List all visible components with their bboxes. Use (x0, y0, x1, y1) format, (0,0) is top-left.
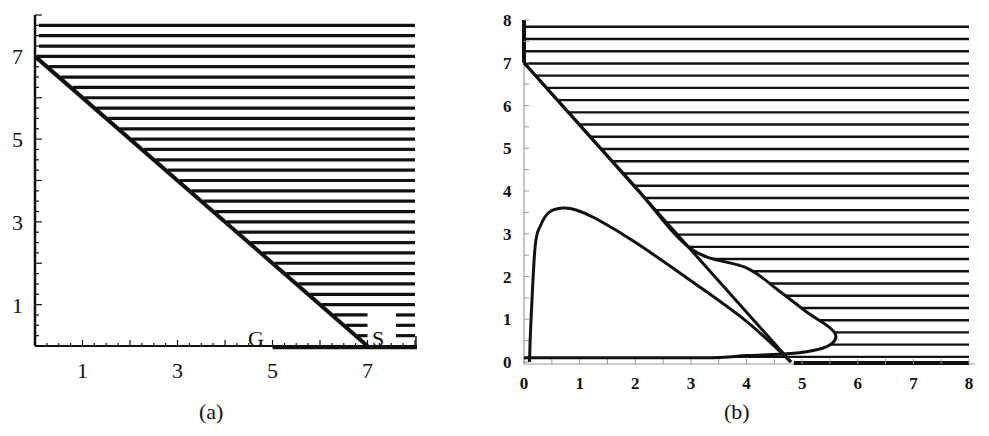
y-tick-label: 1 (12, 293, 23, 318)
x-tick-label: 1 (77, 358, 88, 383)
x-tick-labels-a: 1357 (77, 358, 373, 383)
y-tick-labels-a: 1357 (12, 44, 23, 317)
annotation-s: S (372, 326, 384, 351)
chart-panel-b: 012345678 012345678 (b) (503, 11, 975, 424)
y-tick-label: 8 (503, 11, 512, 30)
y-tick-label: 0 (503, 353, 512, 372)
x-tick-label: 7 (909, 374, 918, 393)
panel-label-a: (a) (199, 399, 223, 424)
y-tick-label: 3 (12, 210, 23, 235)
y-tick-label: 1 (503, 310, 512, 329)
hatch-region-a (37, 25, 415, 335)
chart-panel-a: 1357 1357 G S (a) (12, 15, 417, 424)
y-tick-label: 6 (503, 97, 512, 116)
y-tick-label: 4 (503, 182, 512, 201)
x-tick-label: 1 (575, 374, 584, 393)
y-tick-label: 3 (503, 225, 512, 244)
x-tick-label: 3 (687, 374, 696, 393)
y-tick-label: 2 (503, 268, 512, 287)
x-tick-label: 8 (965, 374, 974, 393)
x-tick-label: 2 (631, 374, 640, 393)
y-tick-label: 5 (503, 139, 512, 158)
annotation-g: G (248, 326, 264, 351)
y-tick-labels-b: 012345678 (503, 11, 512, 372)
x-tick-label: 5 (798, 374, 807, 393)
x-tick-label: 6 (854, 374, 863, 393)
x-tick-label: 3 (172, 358, 183, 383)
x-tick-label: 7 (362, 358, 373, 383)
x-tick-label: 4 (742, 374, 751, 393)
y-tick-label: 5 (12, 127, 23, 152)
y-tick-label: 7 (503, 54, 512, 73)
x-tick-label: 5 (267, 358, 278, 383)
y-tick-label: 7 (12, 44, 23, 69)
figure: 1357 1357 G S (a) 012345678 012345678 (b… (0, 0, 989, 436)
x-tick-labels-b: 012345678 (520, 374, 974, 393)
panel-label-b: (b) (724, 399, 750, 424)
x-tick-label: 0 (520, 374, 529, 393)
hatch-region-b (524, 27, 969, 358)
